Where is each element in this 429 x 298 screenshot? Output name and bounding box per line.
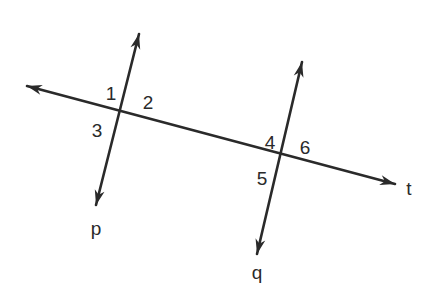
- line-t: [27, 86, 395, 184]
- angle-label-2: 2: [143, 92, 154, 113]
- angle-label-5: 5: [257, 168, 268, 189]
- line-label-q: q: [252, 262, 263, 283]
- angle-label-1: 1: [106, 83, 117, 104]
- angle-label-6: 6: [300, 137, 311, 158]
- line-p: [96, 34, 139, 205]
- parallel-lines-transversal-diagram: 1 2 3 4 6 5 t p q: [0, 0, 429, 298]
- line-labels: t p q: [91, 178, 413, 283]
- lines-layer: [27, 34, 395, 254]
- line-label-t: t: [406, 178, 412, 199]
- angle-labels: 1 2 3 4 6 5: [92, 83, 311, 189]
- angle-label-3: 3: [92, 120, 103, 141]
- angle-label-4: 4: [265, 132, 276, 153]
- line-label-p: p: [91, 218, 102, 239]
- arrowheads-layer: [27, 34, 395, 254]
